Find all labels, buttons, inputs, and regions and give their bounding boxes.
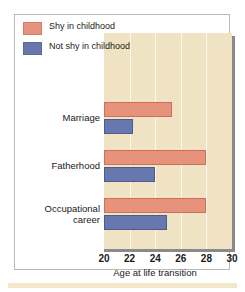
bar-occupational-career-notshy bbox=[104, 215, 167, 230]
category-label-line: career bbox=[14, 214, 100, 225]
x-tick-26: 26 bbox=[175, 253, 186, 264]
figure-frame: MarriageFatherhoodOccupationalcareer Shy… bbox=[14, 14, 230, 270]
gridline-26 bbox=[181, 33, 182, 249]
bar-marriage-shy bbox=[104, 102, 172, 117]
bar-occupational-career-shy bbox=[104, 198, 206, 213]
legend-label-shy: Shy in childhood bbox=[49, 21, 115, 32]
legend-swatch-not-shy bbox=[23, 42, 42, 55]
legend-item-not-shy: Not shy in childhood bbox=[23, 41, 141, 55]
bar-fatherhood-shy bbox=[104, 150, 206, 165]
category-label-occupational-career: Occupationalcareer bbox=[14, 203, 100, 225]
category-axis-labels: MarriageFatherhoodOccupationalcareer bbox=[15, 33, 100, 249]
category-label-line: Fatherhood bbox=[14, 160, 100, 171]
bar-marriage-notshy bbox=[104, 119, 133, 134]
chart-legend: Shy in childhood Not shy in childhood bbox=[23, 21, 141, 61]
legend-label-not-shy: Not shy in childhood bbox=[49, 41, 130, 52]
gridline-28 bbox=[206, 33, 207, 249]
x-axis-line bbox=[104, 249, 235, 252]
category-label-line: Occupational bbox=[14, 203, 100, 214]
category-label-marriage: Marriage bbox=[14, 112, 100, 123]
x-tick-24: 24 bbox=[150, 253, 161, 264]
x-tick-30: 30 bbox=[226, 253, 237, 264]
legend-item-shy: Shy in childhood bbox=[23, 21, 141, 35]
x-tick-22: 22 bbox=[124, 253, 135, 264]
bottom-accent-strip bbox=[8, 283, 237, 288]
category-label-fatherhood: Fatherhood bbox=[14, 160, 100, 171]
x-axis-title: Age at life transition bbox=[75, 267, 235, 278]
plot-panel bbox=[104, 33, 232, 249]
x-tick-20: 20 bbox=[98, 253, 109, 264]
bar-fatherhood-notshy bbox=[104, 167, 155, 182]
category-label-line: Marriage bbox=[14, 112, 100, 123]
x-tick-28: 28 bbox=[201, 253, 212, 264]
x-axis-tick-labels: 202224262830 bbox=[104, 253, 232, 266]
legend-swatch-shy bbox=[23, 22, 42, 35]
